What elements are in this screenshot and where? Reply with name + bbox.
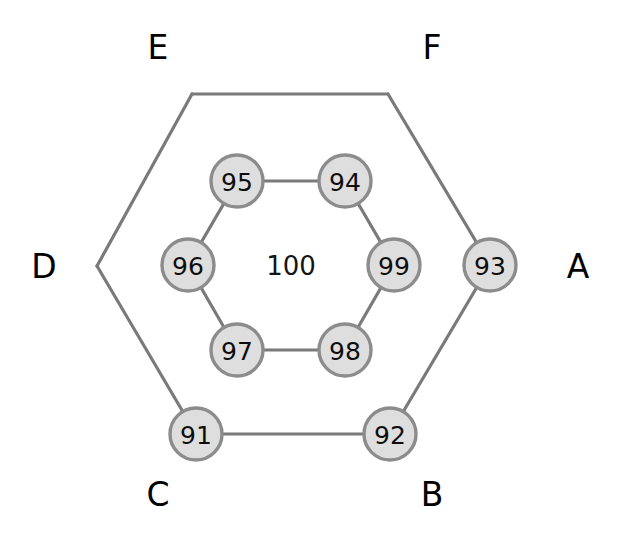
graph-nodes: 919293949596979899 [162,155,516,460]
corner-label-a: A [567,247,590,286]
node-label-96: 96 [172,252,204,281]
hexagon-diagram-svg: 919293949596979899 100 ABCDEF [0,0,622,540]
corner-label-e: E [148,28,169,67]
node-label-98: 98 [329,337,361,366]
hexagon-diagram-canvas: 919293949596979899 100 ABCDEF [0,0,622,540]
graph-node-95[interactable]: 95 [211,155,263,207]
corner-label-c: C [146,475,169,514]
node-label-93: 93 [474,252,506,281]
center-label-100: 100 [266,251,316,281]
corner-label-d: D [31,247,56,286]
node-label-97: 97 [221,337,253,366]
node-label-92: 92 [374,421,406,450]
node-label-94: 94 [329,168,361,197]
graph-node-91[interactable]: 91 [170,408,222,460]
graph-node-99[interactable]: 99 [368,239,420,291]
graph-node-93[interactable]: 93 [464,239,516,291]
graph-node-98[interactable]: 98 [319,324,371,376]
graph-node-97[interactable]: 97 [211,324,263,376]
graph-node-92[interactable]: 92 [364,408,416,460]
corner-label-b: B [421,475,444,514]
corner-label-f: F [423,28,442,67]
node-label-95: 95 [221,168,253,197]
graph-node-94[interactable]: 94 [319,155,371,207]
node-label-99: 99 [378,252,410,281]
node-label-91: 91 [180,421,212,450]
center-node-label: 100 [266,251,316,281]
graph-node-96[interactable]: 96 [162,239,214,291]
